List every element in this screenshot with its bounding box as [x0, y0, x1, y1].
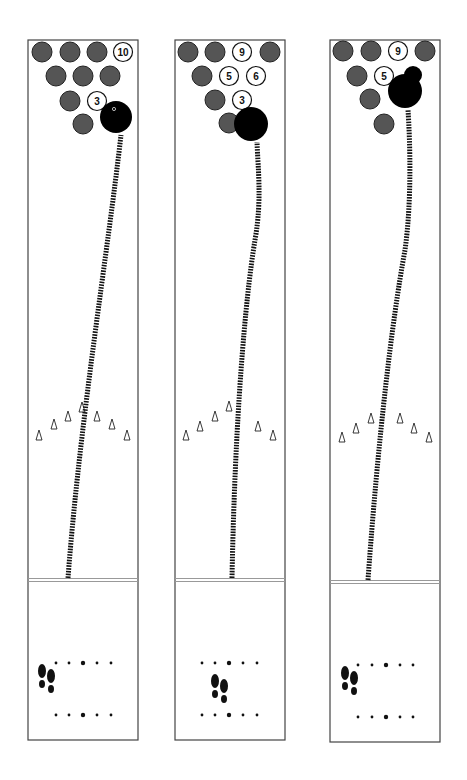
pin-icon [87, 42, 107, 62]
approach-dot [371, 716, 374, 719]
approach-dot [81, 661, 85, 665]
bowling-ball-icon [100, 101, 132, 133]
pin-icon [333, 41, 353, 61]
pin-icon [60, 91, 80, 111]
approach-dot [242, 662, 245, 665]
approach-dot [412, 716, 415, 719]
pin-number: 9 [395, 46, 401, 57]
approach-dot [214, 714, 217, 717]
approach-dot [412, 664, 415, 667]
approach-dot [68, 662, 71, 665]
pin-icon [192, 66, 212, 86]
approach-dot [242, 714, 245, 717]
lane-1: 103 [28, 40, 138, 740]
pin-icon [73, 114, 93, 134]
pin-icon [374, 114, 394, 134]
approach-dot [110, 714, 113, 717]
pin-number: 9 [239, 47, 245, 58]
pin-icon [260, 42, 280, 62]
lane-border [28, 40, 138, 740]
pin-icon [205, 90, 225, 110]
approach-dot [256, 662, 259, 665]
approach-dot [399, 664, 402, 667]
approach-dot [399, 716, 402, 719]
pin-icon [32, 42, 52, 62]
pin-icon [46, 66, 66, 86]
approach-dot [81, 713, 85, 717]
pin-icon [100, 66, 120, 86]
lane-2: 9563 [175, 40, 285, 740]
lane-border [330, 40, 440, 742]
approach-dot [227, 713, 231, 717]
approach-dot [357, 716, 360, 719]
approach-dot [214, 662, 217, 665]
approach-dot [55, 662, 58, 665]
approach-dot [110, 662, 113, 665]
approach-dot [384, 715, 388, 719]
approach-dot [201, 662, 204, 665]
lane-border [175, 40, 285, 740]
approach-dot [227, 661, 231, 665]
pin-icon [60, 42, 80, 62]
approach-dot [357, 664, 360, 667]
pin-number: 3 [94, 96, 100, 107]
bowling-diagram: 103956395 [0, 0, 467, 780]
pin-icon [360, 89, 380, 109]
pin-number: 3 [239, 95, 245, 106]
pin-icon [205, 42, 225, 62]
bowling-ball-icon [404, 66, 422, 84]
pin-icon [361, 41, 381, 61]
approach-dot [96, 662, 99, 665]
lane-3: 95 [330, 40, 440, 742]
pin-icon [73, 66, 93, 86]
pin-number: 5 [381, 71, 387, 82]
pin-icon [415, 41, 435, 61]
bowling-ball-icon [234, 107, 268, 141]
pin-number: 5 [226, 71, 232, 82]
approach-dot [96, 714, 99, 717]
pin-number: 6 [253, 71, 259, 82]
pin-icon [347, 66, 367, 86]
approach-dot [68, 714, 71, 717]
approach-dot [256, 714, 259, 717]
approach-dot [55, 714, 58, 717]
pin-number: 10 [117, 47, 129, 58]
approach-dot [371, 664, 374, 667]
approach-dot [201, 714, 204, 717]
approach-dot [384, 663, 388, 667]
pin-icon [178, 42, 198, 62]
